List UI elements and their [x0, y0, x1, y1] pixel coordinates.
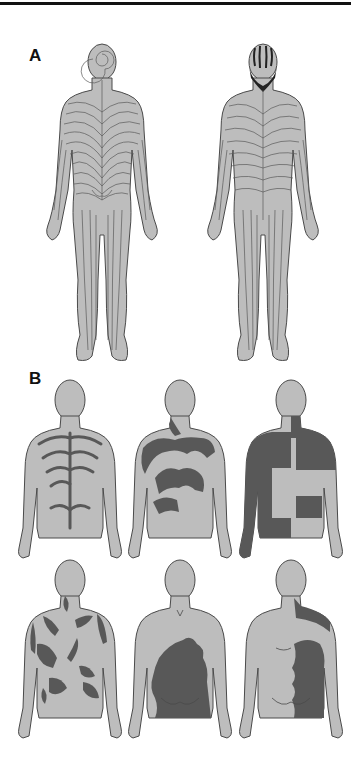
panel-a-figure-front: [203, 40, 323, 370]
panel-b-figure-phylloid: [15, 558, 125, 740]
panel-b-figure-broad-bands: [125, 378, 235, 560]
panel-b-figure-patchy: [125, 558, 235, 740]
panel-label-a: A: [29, 46, 41, 66]
panel-b-figure-lateralization: [236, 558, 346, 740]
panel-b-figure-checkerboard: [236, 378, 346, 560]
top-rule: [0, 2, 351, 5]
panel-a-figure-back: [42, 40, 162, 370]
panel-b-figure-narrow-bands: [15, 378, 125, 560]
